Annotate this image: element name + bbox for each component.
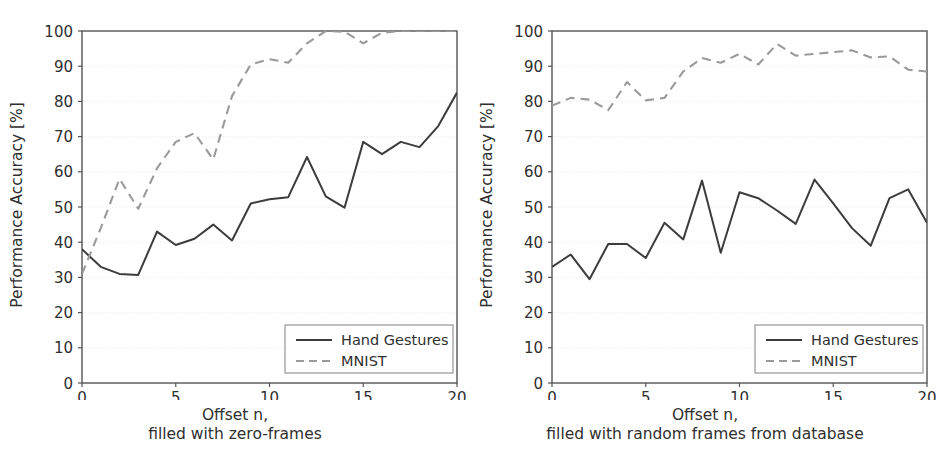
x-axis-label-left: Offset n, filled with zero-frames — [0, 406, 470, 445]
chart-panel-right: Performance Accuracy [%] 010203040506070… — [470, 0, 940, 472]
y-tick-label: 80 — [524, 93, 543, 111]
y-tick-label: 80 — [54, 93, 73, 111]
y-tick-label: 70 — [524, 128, 543, 146]
x-tick-label: 20 — [917, 389, 936, 400]
figure-two-panel-line-charts: Performance Accuracy [%] 010203040506070… — [0, 0, 940, 472]
x-tick-label: 20 — [447, 389, 466, 400]
series-line-hand-gestures — [552, 180, 927, 280]
x-tick-label: 10 — [730, 389, 749, 400]
y-tick-label: 20 — [524, 304, 543, 322]
y-tick-label: 0 — [533, 375, 543, 393]
series-line-mnist — [82, 31, 457, 274]
plot-area-left: 010203040506070809010005101520Hand Gestu… — [0, 0, 470, 400]
y-tick-label: 90 — [54, 58, 73, 76]
x-axis-label-left-line1: Offset n, — [202, 406, 268, 424]
x-axis-label-right-line2: filled with random frames from database — [470, 425, 940, 444]
y-tick-label: 60 — [524, 163, 543, 181]
y-tick-label: 70 — [54, 128, 73, 146]
y-tick-label: 40 — [54, 234, 73, 252]
x-tick-label: 15 — [354, 389, 373, 400]
y-tick-label: 90 — [524, 58, 543, 76]
x-tick-label: 10 — [260, 389, 279, 400]
x-tick-label: 5 — [171, 389, 181, 400]
x-axis-label-right: Offset n, filled with random frames from… — [470, 406, 940, 445]
x-tick-label: 15 — [824, 389, 843, 400]
y-tick-label: 50 — [54, 199, 73, 217]
series-line-hand-gestures — [82, 93, 457, 275]
plot-area-right: 010203040506070809010005101520Hand Gestu… — [470, 0, 940, 400]
x-axis-label-left-line2: filled with zero-frames — [0, 425, 470, 444]
x-tick-label: 0 — [547, 389, 557, 400]
x-tick-label: 0 — [77, 389, 87, 400]
x-tick-label: 5 — [641, 389, 651, 400]
y-tick-label: 10 — [524, 339, 543, 357]
legend-label: Hand Gestures — [341, 332, 449, 348]
series-line-mnist — [552, 44, 927, 110]
y-tick-label: 100 — [44, 23, 73, 41]
y-tick-label: 100 — [514, 23, 543, 41]
x-axis-label-right-line1: Offset n, — [672, 406, 738, 424]
y-tick-label: 30 — [524, 269, 543, 287]
y-tick-label: 20 — [54, 304, 73, 322]
y-tick-label: 50 — [524, 199, 543, 217]
legend-label: MNIST — [341, 353, 387, 369]
legend-label: MNIST — [811, 353, 857, 369]
y-tick-label: 60 — [54, 163, 73, 181]
y-tick-label: 40 — [524, 234, 543, 252]
y-tick-label: 0 — [63, 375, 73, 393]
y-tick-label: 30 — [54, 269, 73, 287]
legend-label: Hand Gestures — [811, 332, 919, 348]
chart-panel-left: Performance Accuracy [%] 010203040506070… — [0, 0, 470, 472]
y-tick-label: 10 — [54, 339, 73, 357]
